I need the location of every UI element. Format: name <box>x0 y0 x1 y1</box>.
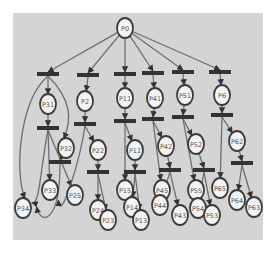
place-label: P15 <box>119 187 131 195</box>
place-P64[interactable]: P64 <box>229 190 245 210</box>
place-P53[interactable]: P53 <box>204 205 220 225</box>
arc-T6-P6 <box>220 74 221 85</box>
place-P31[interactable]: P31 <box>40 94 56 114</box>
place-label: P12 <box>129 147 141 155</box>
arc-P62-T17 <box>239 151 242 161</box>
place-label: P42 <box>160 143 172 151</box>
place-P44[interactable]: P44 <box>152 195 168 215</box>
place-P32[interactable]: P32 <box>58 138 74 158</box>
place-P11[interactable]: P11 <box>117 88 133 108</box>
arc-T12-P65 <box>220 117 222 178</box>
place-label: P45 <box>156 187 168 195</box>
arc-T15-P43 <box>170 172 178 205</box>
place-P6[interactable]: P6 <box>214 85 230 105</box>
place-P12[interactable]: P12 <box>127 140 143 160</box>
transition-T15[interactable] <box>159 168 181 172</box>
place-label: P51 <box>179 92 191 100</box>
place-P52[interactable]: P52 <box>188 134 204 154</box>
place-label: P54 <box>192 205 204 213</box>
place-label: P2 <box>81 98 89 106</box>
transition-T5[interactable] <box>172 70 194 74</box>
place-P51[interactable]: P51 <box>177 85 193 105</box>
place-label: P34 <box>17 205 29 213</box>
place-label: P23 <box>102 217 114 225</box>
place-label: P63 <box>248 204 260 212</box>
place-P34[interactable]: P34 <box>15 198 31 218</box>
place-label: P31 <box>42 101 54 109</box>
transition-T10[interactable] <box>142 117 164 121</box>
arc-T8-P22 <box>85 126 94 142</box>
place-P33[interactable]: P33 <box>42 180 58 200</box>
transition-T16[interactable] <box>193 168 215 172</box>
transition-T3[interactable] <box>114 72 136 76</box>
place-P42[interactable]: P42 <box>158 136 174 156</box>
place-label: P53 <box>206 212 218 220</box>
transition-T4[interactable] <box>142 71 164 75</box>
place-P25[interactable]: P25 <box>67 185 83 205</box>
place-P55[interactable]: P55 <box>188 180 204 200</box>
place-label: P55 <box>190 187 202 195</box>
transition-T14[interactable] <box>124 170 146 174</box>
place-label: P41 <box>149 95 161 103</box>
arc-T12-P62 <box>222 117 232 133</box>
arc-T5-P51 <box>183 74 184 85</box>
place-label: P32 <box>60 145 72 153</box>
place-label: P0 <box>121 25 129 33</box>
arc-P0-T1 <box>48 32 118 72</box>
arc-P0-T4 <box>130 36 153 71</box>
place-P62[interactable]: P62 <box>229 131 245 151</box>
transition-T9[interactable] <box>114 119 136 123</box>
arc-T2-P2 <box>86 77 88 91</box>
arc-T17-P64 <box>238 165 242 190</box>
arc-P42-T15 <box>168 156 170 168</box>
place-P63[interactable]: P63 <box>246 197 262 217</box>
place-label: P11 <box>119 95 131 103</box>
place-label: P52 <box>190 141 202 149</box>
petri-net-diagram: P0P31P2P11P41P51P6P32P22P12P42P52P62P33P… <box>0 0 275 255</box>
arc-P51-T11 <box>183 105 184 115</box>
place-label: P13 <box>135 217 147 225</box>
place-label: P25 <box>69 192 81 200</box>
transition-T1[interactable] <box>37 72 59 76</box>
place-label: P62 <box>231 138 243 146</box>
arc-T16-P53 <box>204 172 210 205</box>
arc-T4-P41 <box>153 75 154 88</box>
arc-P0-T6 <box>133 31 220 70</box>
place-P23[interactable]: P23 <box>100 210 116 230</box>
arc-T1-P34 <box>20 76 48 198</box>
place-label: P43 <box>174 212 186 220</box>
arc-T9-P12 <box>125 123 132 141</box>
place-label: P65 <box>214 185 226 193</box>
place-label: P64 <box>231 197 243 205</box>
arc-P41-T10 <box>153 108 154 117</box>
transition-T17[interactable] <box>231 161 253 165</box>
transition-T12[interactable] <box>211 113 233 117</box>
place-P65[interactable]: P65 <box>212 178 228 198</box>
place-P41[interactable]: P41 <box>147 88 163 108</box>
place-label: P14 <box>126 204 138 212</box>
arc-P52-T16 <box>199 153 204 168</box>
transition-T13[interactable] <box>87 170 109 174</box>
place-P2[interactable]: P2 <box>77 91 93 111</box>
transition-T11[interactable] <box>172 115 194 119</box>
place-P13[interactable]: P13 <box>133 210 149 230</box>
arc-T7-P33 <box>48 130 50 180</box>
place-label: P6 <box>218 92 226 100</box>
place-P43[interactable]: P43 <box>172 205 188 225</box>
place-P22[interactable]: P22 <box>90 140 106 160</box>
place-label: P33 <box>44 187 56 195</box>
transition-T8[interactable] <box>74 122 96 126</box>
transition-T6[interactable] <box>209 70 231 74</box>
place-label: P44 <box>154 202 166 210</box>
place-P0[interactable]: P0 <box>117 18 133 38</box>
transition-T2[interactable] <box>77 73 99 77</box>
transition-T7[interactable] <box>37 126 59 130</box>
transition-T18[interactable] <box>49 160 71 164</box>
place-label: P22 <box>92 147 104 155</box>
